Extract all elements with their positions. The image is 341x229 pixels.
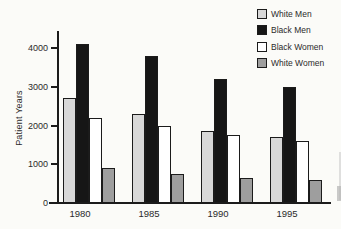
y-tick-mark [51,163,57,165]
y-tick-mark [51,202,57,204]
bar-white-women-1990 [240,178,253,203]
bar-white-women-1980 [102,168,115,203]
bar-black-women-1995 [296,141,309,203]
bar-white-men-1995 [270,137,283,203]
bar-black-women-1985 [158,126,171,204]
legend-label: Black Women [271,42,323,52]
legend-label: White Women [271,58,324,68]
bar-white-men-1990 [201,131,214,203]
legend-swatch-icon [257,25,267,35]
legend-swatch-icon [257,42,267,52]
bar-white-women-1995 [309,180,322,203]
y-tick-mark [51,125,57,127]
x-tick-label-1990: 1990 [200,208,236,219]
y-tick-mark [51,86,57,88]
bar-black-men-1995 [283,87,296,203]
legend-item-white-men: White Men [257,8,324,19]
y-tick-label: 2000 [18,121,48,131]
y-tick-label: 1000 [18,159,48,169]
legend-item-black-men: Black Men [257,25,324,36]
bar-black-men-1985 [145,56,158,203]
legend-swatch-icon [257,9,267,19]
cropped-page-fragment [337,186,341,201]
y-axis-line [57,31,59,204]
bar-white-men-1985 [132,114,145,203]
x-tick-label-1980: 1980 [62,208,98,219]
bar-chart-figure: Patient Years 01000200030004000 19801985… [0,0,341,229]
y-tick-mark [51,47,57,49]
x-tick-label-1995: 1995 [269,208,305,219]
legend-label: Black Men [271,25,311,35]
bar-white-men-1980 [63,98,76,203]
bar-black-women-1990 [227,135,240,203]
bar-black-men-1990 [214,79,227,203]
legend-item-white-women: White Women [257,58,324,69]
bar-black-men-1980 [76,44,89,203]
legend-swatch-icon [257,58,267,68]
y-tick-label: 0 [18,198,48,208]
legend-label: White Men [271,9,312,19]
bar-white-women-1985 [171,174,184,203]
y-tick-label: 4000 [18,43,48,53]
bar-black-women-1980 [89,118,102,203]
y-tick-label: 3000 [18,82,48,92]
legend: White MenBlack MenBlack WomenWhite Women [257,8,324,74]
x-tick-label-1985: 1985 [131,208,167,219]
legend-item-black-women: Black Women [257,41,324,52]
